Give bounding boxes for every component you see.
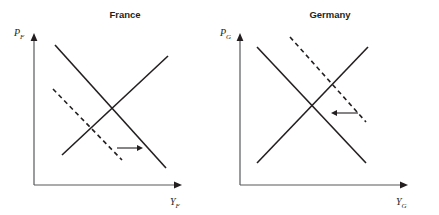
- y-axis-label-france: PF: [13, 27, 25, 41]
- shift-arrow-head: [331, 110, 337, 116]
- x-axis-arrowhead: [174, 182, 182, 189]
- panel-title-germany: Germany: [309, 9, 351, 20]
- x-axis-label-france: YF: [170, 196, 181, 210]
- y-axis-france: [31, 33, 38, 185]
- x-axis-arrowhead: [400, 182, 408, 189]
- x-axis-france: [34, 182, 182, 189]
- two-panel-ad-as-diagram: France PF YF Germany: [0, 0, 439, 215]
- x-axis-germany: [240, 182, 408, 189]
- y-axis-germany: [237, 33, 244, 185]
- y-axis-arrowhead: [31, 33, 38, 41]
- demand-curve-shifted-germany: [290, 37, 366, 122]
- y-axis-arrowhead: [237, 33, 244, 41]
- panel-france: France PF YF: [13, 9, 182, 210]
- panel-title-france: France: [109, 9, 140, 20]
- demand-curve-initial-france: [55, 45, 166, 168]
- x-axis-label-germany: YG: [396, 196, 407, 210]
- y-axis-label-germany: PG: [219, 27, 231, 41]
- panel-germany: Germany PG YG: [219, 9, 408, 210]
- leftward-shift-arrow-germany: [331, 110, 358, 116]
- demand-curve-shifted-france: [53, 89, 122, 160]
- rightward-shift-arrow-france: [117, 145, 143, 151]
- shift-arrow-head: [137, 145, 143, 151]
